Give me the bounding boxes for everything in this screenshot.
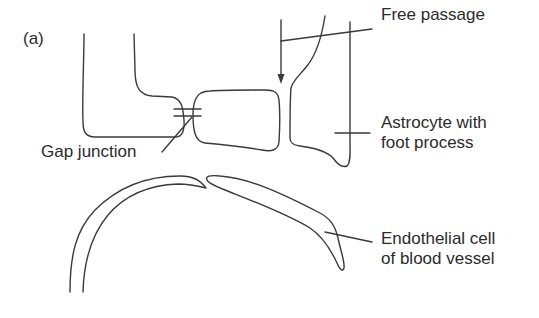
middle-astrocyte-foot: [193, 90, 280, 151]
free-passage-leader: [281, 29, 372, 41]
free-passage-arrow-icon: [278, 20, 285, 84]
endothelial-leader: [325, 232, 372, 242]
label-gap-junction: Gap junction: [41, 142, 136, 162]
label-astrocyte-line2: foot process: [381, 133, 487, 153]
gap-junction-leader: [162, 117, 192, 152]
label-endothelial: Endothelial cell of blood vessel: [381, 229, 495, 269]
gap-junction-icon: [174, 109, 201, 116]
label-astrocyte: Astrocyte with foot process: [381, 113, 487, 153]
blood-vessel-wall: [70, 176, 206, 292]
label-endothelial-line1: Endothelial cell: [381, 229, 495, 249]
label-free-passage: Free passage: [381, 5, 485, 25]
panel-label: (a): [23, 29, 44, 49]
astrocyte-diagram: (a) Free passage Gap junction Astrocyte …: [0, 0, 539, 318]
left-astrocyte-process: [83, 34, 185, 137]
label-astrocyte-line1: Astrocyte with: [381, 113, 487, 133]
label-endothelial-line2: of blood vessel: [381, 249, 495, 269]
endothelial-cell: [207, 176, 345, 270]
